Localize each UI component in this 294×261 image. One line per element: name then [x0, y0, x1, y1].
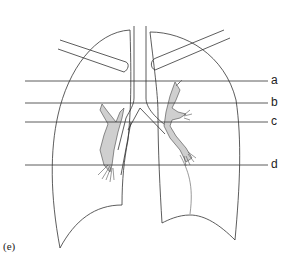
level-label-b: b: [271, 96, 278, 108]
carina: [128, 108, 165, 134]
left-lung-outline: [150, 32, 240, 240]
panel-label: (e): [3, 241, 15, 252]
level-label-c: c: [271, 115, 277, 127]
level-label-d: d: [271, 158, 278, 170]
level-label-a: a: [271, 74, 278, 86]
right-clavicle: [58, 40, 128, 72]
right-lung-outline: [52, 30, 131, 248]
chest-diagram: [0, 0, 294, 261]
right-bronchial-tree: [100, 104, 124, 172]
